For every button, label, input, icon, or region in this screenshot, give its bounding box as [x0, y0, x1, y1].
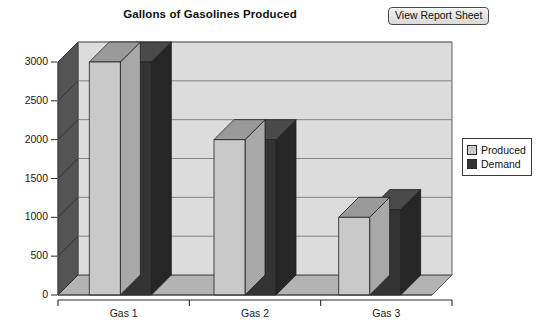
chart-container: Gallons of Gasolines Produced View Repor…	[0, 0, 545, 330]
bar-gas3-produced-front	[339, 217, 370, 295]
legend-item-produced: Produced	[467, 143, 526, 157]
bar-gas2-produced-side	[245, 120, 265, 295]
y-axis-label-1000: 1000	[4, 210, 48, 222]
legend-label: Produced	[481, 145, 526, 156]
x-axis-label-gas2: Gas 2	[195, 307, 315, 319]
chart-legend: ProducedDemand	[462, 138, 532, 176]
x-axis-label-gas3: Gas 3	[326, 307, 446, 319]
bar-gas2-produced-front	[214, 140, 245, 295]
bar-gas2-demand-side	[276, 120, 296, 295]
legend-swatch-demand-icon	[467, 159, 477, 169]
y-axis-label-500: 500	[4, 249, 48, 261]
legend-label: Demand	[481, 159, 521, 170]
y-axis-label-3000: 3000	[4, 55, 48, 67]
x-axis-label-gas1: Gas 1	[64, 307, 184, 319]
y-axis-label-1500: 1500	[4, 172, 48, 184]
legend-swatch-produced-icon	[467, 145, 477, 155]
bar-gas1-produced-side	[120, 42, 140, 295]
bar-gas1-produced-front	[89, 62, 120, 295]
y-axis-label-2000: 2000	[4, 133, 48, 145]
legend-item-demand: Demand	[467, 157, 526, 171]
bar-gas1-demand-side	[151, 42, 171, 295]
y-axis-label-0: 0	[4, 288, 48, 300]
y-axis-label-2500: 2500	[4, 94, 48, 106]
